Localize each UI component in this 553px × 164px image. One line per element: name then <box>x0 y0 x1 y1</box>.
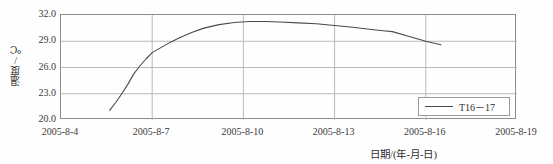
temperature-line-chart: 温度/℃ 32.029.026.023.020.0 2005-8-42005-8… <box>0 0 553 164</box>
legend-item-label: T16－17 <box>459 99 495 114</box>
legend[interactable]: T16－17 <box>418 97 510 116</box>
x-axis-tick-label: 2005-8-16 <box>404 126 446 137</box>
series-line <box>110 22 441 111</box>
x-axis-tick-label: 2005-8-13 <box>313 126 355 137</box>
horizontal-gridlines <box>61 41 517 94</box>
x-axis-tick-label: 2005-8-4 <box>42 126 79 137</box>
legend-line-swatch <box>425 106 453 107</box>
x-axis-tick-label: 2005-8-10 <box>222 126 264 137</box>
series-line-paths <box>110 22 441 111</box>
x-axis-tick-label: 2005-8-7 <box>133 126 170 137</box>
x-axis-tick-label: 2005-8-19 <box>495 126 537 137</box>
x-axis-title: 日期/(年-月-日) <box>370 146 437 161</box>
